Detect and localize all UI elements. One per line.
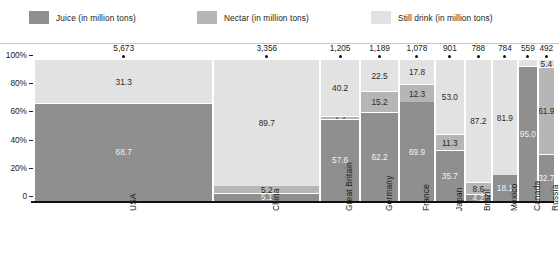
x-axis-category-france: France (421, 205, 448, 223)
segment-value-label: 15.2 (371, 98, 387, 106)
segment-value-label: 12.3 (409, 90, 425, 98)
x-axis-baseline (31, 201, 554, 203)
category-label: Mexico (509, 184, 519, 211)
plot-area: 31.368.789.75.25.140.22.257.622.515.262.… (35, 60, 554, 201)
column-total-value: 492 (516, 44, 559, 52)
column-total-marker (265, 55, 268, 58)
chart-column[interactable]: 17.812.369.9 (400, 60, 434, 201)
category-label: Brazil (482, 189, 492, 211)
column-total-marker (415, 55, 418, 58)
y-axis-tick-mark (29, 140, 33, 141)
legend-swatch-juice (29, 11, 49, 24)
category-label: Germany (384, 175, 394, 211)
bar-segment-juice[interactable]: 68.7 (35, 104, 212, 201)
chart-column[interactable]: 53.011.335.7 (436, 60, 464, 201)
segment-value-label: 95.0 (520, 130, 536, 138)
legend-label-nectar: Nectar (in million tons) (224, 13, 309, 23)
segment-value-label: 40.2 (332, 84, 348, 92)
y-axis-tick-label: 80% (10, 78, 27, 88)
segment-value-label: 62.2 (371, 153, 387, 161)
column-total-value: 5,673 (94, 44, 154, 52)
y-axis-tick-label: 60% (10, 106, 27, 116)
category-label: France (421, 184, 431, 211)
x-axis-category-japan: Japan (454, 205, 478, 223)
legend-swatch-still-drink (371, 11, 391, 24)
y-axis-tick-label: 0 (22, 191, 27, 201)
category-label: Russia (550, 184, 559, 211)
y-axis-tick-label: 20% (10, 163, 27, 173)
category-label: Canada (532, 181, 542, 211)
column-total: 5,673 (94, 44, 154, 58)
x-axis-category-germany: Germany (384, 205, 420, 223)
x-axis-category-brazil: Brazil (482, 205, 504, 223)
y-axis: 100%80%60%40%20%0 (0, 55, 33, 205)
legend-item-nectar: Nectar (in million tons) (197, 11, 309, 24)
legend-item-juice: Juice (in million tons) (29, 11, 136, 24)
bar-segment-still[interactable]: 87.2 (466, 60, 491, 183)
column-total-marker (339, 55, 342, 58)
segment-value-label: 31.3 (116, 78, 132, 86)
x-axis-category-china: China (271, 205, 294, 223)
y-axis-tick-label: 100% (6, 50, 27, 60)
segment-value-label: 87.2 (470, 117, 486, 125)
bar-segment-juice[interactable]: 5.1 (214, 194, 319, 201)
y-axis-tick-mark (29, 111, 33, 112)
legend-item-still-drink: Still drink (in million tons) (371, 11, 493, 24)
column-total-marker (122, 55, 125, 58)
segment-value-label: 53.0 (442, 93, 458, 101)
category-label: Great Britain (344, 162, 354, 211)
legend-label-juice: Juice (in million tons) (56, 13, 136, 23)
chart-column[interactable]: 31.368.7 (35, 60, 212, 201)
chart-column[interactable]: 87.28.64.2 (466, 60, 491, 201)
bar-segment-nectar[interactable]: 15.2 (361, 92, 398, 113)
bar-segment-nectar[interactable]: 61.9 (539, 68, 554, 155)
y-axis-tick-mark (29, 55, 33, 56)
column-total: 3,356 (237, 44, 297, 58)
bar-segment-still[interactable]: 22.5 (361, 60, 398, 92)
segment-value-label: 17.8 (409, 68, 425, 76)
segment-value-label: 81.9 (497, 114, 513, 122)
column-total-value: 3,356 (237, 44, 297, 52)
legend-swatch-nectar (197, 11, 217, 24)
segment-value-label: 11.3 (442, 139, 458, 147)
column-total-marker (545, 55, 548, 58)
bar-segment-still[interactable]: 89.7 (214, 60, 319, 186)
bar-segment-still[interactable]: 53.0 (436, 60, 464, 135)
column-total-marker (378, 55, 381, 58)
category-label: China (271, 188, 281, 211)
category-label: USA (128, 193, 138, 211)
segment-value-label: 35.7 (442, 172, 458, 180)
chart-column[interactable]: 81.918.1 (493, 60, 518, 201)
bar-segment-nectar[interactable]: 11.3 (436, 135, 464, 151)
chart-legend: Juice (in million tons) Nectar (in milli… (0, 8, 559, 32)
segment-value-label: 22.5 (371, 72, 387, 80)
y-axis-tick-mark (29, 196, 33, 197)
segment-value-label: 69.9 (409, 148, 425, 156)
marimekko-chart: Juice (in million tons) Nectar (in milli… (0, 0, 559, 271)
segment-value-label: 61.9 (539, 107, 554, 115)
bar-segment-still[interactable]: 81.9 (493, 60, 518, 175)
legend-label-still-drink: Still drink (in million tons) (398, 13, 493, 23)
bar-segment-still[interactable]: 17.8 (400, 60, 434, 85)
x-axis-category-russia: Russia (550, 205, 559, 223)
y-axis-tick-mark (29, 168, 33, 169)
bar-segment-still[interactable]: 31.3 (35, 60, 212, 104)
segment-value-label: 89.7 (259, 119, 275, 127)
column-total: 492 (516, 44, 559, 58)
bar-segment-nectar[interactable]: 12.3 (400, 85, 434, 102)
bar-segment-still[interactable]: 40.2 (321, 60, 359, 117)
category-label: Japan (454, 187, 464, 211)
y-axis-tick-mark (29, 83, 33, 84)
y-axis-tick-label: 40% (10, 135, 27, 145)
chart-column[interactable]: 89.75.25.1 (214, 60, 319, 201)
segment-value-label: 68.7 (116, 148, 132, 156)
x-axis-category-usa: USA (128, 205, 146, 223)
